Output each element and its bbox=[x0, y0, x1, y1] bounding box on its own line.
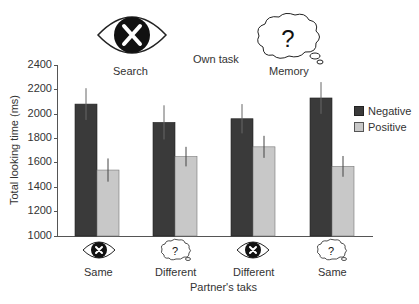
category-label-3: Different bbox=[233, 266, 274, 278]
legend-swatch-positive bbox=[354, 122, 364, 132]
partner-memory-cloud-icon-2: ? bbox=[159, 238, 193, 264]
bar-negative-1 bbox=[75, 104, 97, 236]
category-label-2: Different bbox=[155, 266, 196, 278]
partner-memory-cloud-icon-4: ? bbox=[315, 238, 349, 264]
y-axis bbox=[54, 65, 58, 236]
bar-positive-4 bbox=[332, 166, 354, 236]
legend-label-positive: Positive bbox=[368, 121, 407, 133]
legend-swatch-negative bbox=[354, 106, 364, 116]
legend: Negative Positive bbox=[354, 103, 411, 135]
svg-text:?: ? bbox=[328, 245, 334, 257]
bar-chart-plot bbox=[0, 0, 419, 304]
bar-negative-4 bbox=[310, 98, 332, 236]
legend-item-positive: Positive bbox=[354, 119, 411, 135]
partner-search-eye-icon-1 bbox=[82, 239, 116, 261]
category-label-4: Same bbox=[318, 266, 347, 278]
bars bbox=[75, 82, 354, 236]
bar-negative-3 bbox=[231, 119, 253, 236]
bar-positive-3 bbox=[253, 147, 275, 236]
partner-search-eye-icon-3 bbox=[236, 239, 270, 261]
svg-text:?: ? bbox=[172, 245, 178, 257]
bar-positive-2 bbox=[175, 157, 197, 236]
x-axis-label: Partner's taks bbox=[190, 281, 257, 293]
category-label-1: Same bbox=[84, 266, 113, 278]
legend-label-negative: Negative bbox=[368, 105, 411, 117]
legend-item-negative: Negative bbox=[354, 103, 411, 119]
